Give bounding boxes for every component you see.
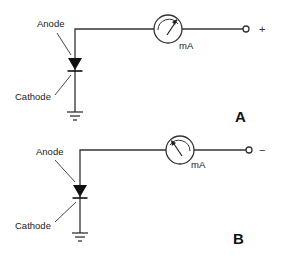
polarity-label-b: −	[259, 144, 265, 156]
anode-a-leader	[57, 33, 71, 55]
circuit-b: Anode Cathode mA − B	[15, 136, 265, 247]
cathode-b-leader	[55, 202, 76, 222]
cathode-label-b: Cathode	[15, 220, 51, 231]
wire-b-main	[80, 150, 166, 233]
milliammeter-a-icon	[154, 15, 182, 43]
circuit-a: Anode Cathode mA + A	[15, 15, 265, 125]
meter-unit-label-a: mA	[179, 40, 194, 51]
milliammeter-b-icon	[166, 136, 194, 164]
ground-a-icon	[67, 112, 83, 120]
terminal-b-icon	[246, 147, 252, 153]
anode-label-a: Anode	[37, 18, 64, 29]
panel-label-a: A	[235, 108, 246, 125]
polarity-label-a: +	[259, 23, 265, 35]
diode-b-icon	[73, 185, 88, 198]
cathode-label-a: Cathode	[15, 91, 51, 102]
diagram-canvas: Anode Cathode mA + A	[0, 0, 281, 258]
wire-a-main	[75, 29, 154, 112]
diode-a-icon	[68, 58, 83, 71]
meter-unit-label-b: mA	[191, 159, 206, 170]
terminal-a-icon	[243, 26, 249, 32]
anode-label-b: Anode	[36, 146, 63, 157]
anode-b-leader	[55, 160, 75, 182]
panel-label-b: B	[233, 230, 244, 247]
cathode-a-leader	[55, 75, 71, 95]
ground-b-icon	[72, 233, 88, 241]
